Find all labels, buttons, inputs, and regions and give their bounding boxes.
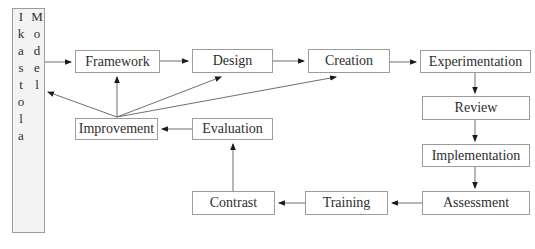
node-design: Design bbox=[192, 49, 273, 73]
diagram-canvas: Ikastola Model Framework Design Creation… bbox=[0, 0, 535, 249]
arrow-improvement-to-design bbox=[117, 77, 221, 117]
node-experimentation: Experimentation bbox=[420, 50, 531, 73]
node-ikastola-model: Ikastola Model bbox=[12, 8, 45, 233]
node-improvement: Improvement bbox=[75, 118, 158, 140]
arrow-improvement-to-creation bbox=[117, 77, 336, 117]
node-evaluation: Evaluation bbox=[192, 118, 273, 140]
node-creation: Creation bbox=[308, 49, 390, 73]
node-framework: Framework bbox=[75, 50, 160, 73]
arrow-improvement-to-ikastola bbox=[48, 92, 117, 117]
node-training: Training bbox=[305, 191, 388, 215]
node-assessment: Assessment bbox=[422, 191, 530, 215]
side-label: Ikastola Model bbox=[13, 9, 45, 232]
node-contrast: Contrast bbox=[192, 191, 275, 215]
node-review: Review bbox=[422, 96, 530, 120]
node-implementation: Implementation bbox=[422, 144, 530, 167]
